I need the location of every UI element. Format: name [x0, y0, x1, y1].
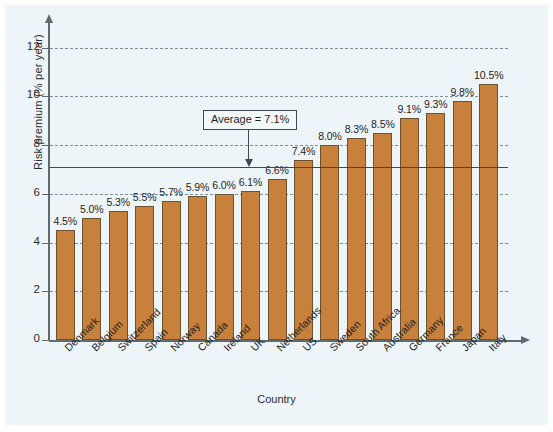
y-axis-tick [42, 340, 49, 341]
bar-italy[interactable] [479, 84, 498, 340]
average-annotation-arrow-icon [245, 159, 253, 167]
y-axis-tick [42, 243, 49, 244]
bar-germany[interactable] [400, 118, 419, 340]
bar-south-africa[interactable] [347, 138, 366, 340]
bar-ireland[interactable] [215, 194, 234, 340]
bar-denmark[interactable] [56, 230, 75, 340]
y-axis-tick-label: 6 [0, 186, 40, 198]
bar-value-label: 9.8% [440, 86, 484, 98]
y-axis-tick-label: 8 [0, 137, 40, 149]
bar-netherlands[interactable] [268, 179, 287, 340]
y-axis-tick [42, 48, 49, 49]
average-line [50, 167, 508, 168]
y-axis-arrow-icon [45, 14, 53, 23]
chart-figure: Risk premium (% per year) Country 4.5%5.… [0, 0, 553, 432]
y-axis-tick-label: 0 [0, 332, 40, 344]
bar-sweden[interactable] [320, 145, 339, 340]
bar-france[interactable] [426, 113, 445, 340]
x-axis-title: Country [0, 393, 553, 405]
bar-value-label: 10.5% [467, 69, 511, 81]
bar-uk[interactable] [241, 191, 260, 340]
bar-value-label: 7.4% [281, 145, 325, 157]
bar-norway[interactable] [162, 201, 181, 340]
y-axis-tick-label: 12 [0, 40, 40, 52]
y-axis-tick-label: 10 [0, 88, 40, 100]
bar-value-label: 4.5% [43, 215, 87, 227]
average-annotation-box: Average = 7.1% [203, 110, 297, 130]
y-axis-tick [42, 96, 49, 97]
bar-canada[interactable] [188, 196, 207, 340]
y-axis-tick [42, 145, 49, 146]
y-axis-tick [42, 291, 49, 292]
bar-value-label: 6.1% [229, 176, 273, 188]
average-annotation-leader [248, 130, 249, 159]
plot-area: 4.5%5.0%5.3%5.5%5.7%5.9%6.0%6.1%6.6%7.4%… [50, 33, 508, 340]
y-axis-tick [42, 194, 49, 195]
y-axis-tick-label: 2 [0, 283, 40, 295]
bar-value-label: 8.5% [361, 118, 405, 130]
bar-value-label: 6.6% [255, 164, 299, 176]
x-axis-arrow-icon [521, 336, 530, 344]
bar-value-label: 9.3% [414, 98, 458, 110]
y-axis-tick-label: 4 [0, 235, 40, 247]
bar-japan[interactable] [453, 101, 472, 340]
gridline [50, 48, 508, 49]
